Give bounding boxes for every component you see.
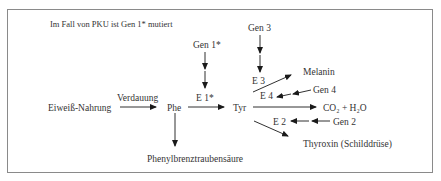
arrow-tyr-to-melanin xyxy=(253,75,291,92)
pathway-arrows xyxy=(0,0,441,181)
arrow-gen4-2 xyxy=(277,94,291,97)
arrow-gen4-1 xyxy=(293,90,311,94)
arrow-tyr-to-thyroxin xyxy=(254,121,288,136)
